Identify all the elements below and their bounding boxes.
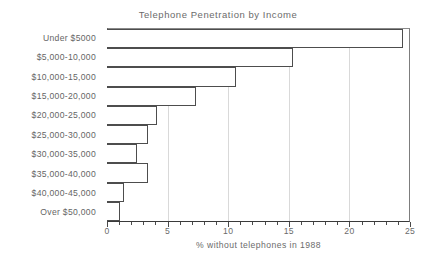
bar-6[interactable] xyxy=(107,144,137,163)
bar-row xyxy=(108,87,409,106)
tick-17 xyxy=(313,222,314,225)
tick-22 xyxy=(374,222,375,225)
bar-row xyxy=(108,106,409,125)
tick-7 xyxy=(192,222,193,225)
x-tick-label-20: 20 xyxy=(344,226,354,236)
tick-6 xyxy=(180,222,181,225)
x-tick-label-15: 15 xyxy=(284,226,294,236)
x-tick-label-5: 5 xyxy=(165,226,170,236)
bar-9[interactable] xyxy=(107,202,120,221)
tick-8 xyxy=(204,222,205,225)
y-label-9: Over $50,000 xyxy=(0,203,101,222)
y-label-5: $25,000-30,000 xyxy=(0,125,101,144)
bar-7[interactable] xyxy=(107,163,148,182)
x-tick-label-10: 10 xyxy=(223,226,233,236)
x-tick-label-25: 25 xyxy=(405,226,415,236)
tick-23 xyxy=(386,222,387,225)
tick-13 xyxy=(265,222,266,225)
tick-11 xyxy=(240,222,241,225)
bar-series xyxy=(108,29,409,221)
y-label-0: Under $5000 xyxy=(0,28,101,47)
bar-4[interactable] xyxy=(107,106,157,125)
y-label-6: $30,000-35,000 xyxy=(0,144,101,163)
tick-12 xyxy=(252,222,253,225)
bar-8[interactable] xyxy=(107,183,124,202)
tick-1 xyxy=(119,222,120,225)
x-tick-label-0: 0 xyxy=(104,226,109,236)
bar-row xyxy=(108,144,409,163)
bar-5[interactable] xyxy=(107,125,148,144)
bar-row xyxy=(108,29,409,48)
bar-row xyxy=(108,202,409,221)
tick-24 xyxy=(398,222,399,225)
tick-18 xyxy=(325,222,326,225)
chart-title: Telephone Penetration by Income xyxy=(0,9,436,20)
chart-container: Telephone Penetration by Income Under $5… xyxy=(0,0,436,265)
bar-0[interactable] xyxy=(107,29,403,48)
y-label-1: $5,000-10,000 xyxy=(0,47,101,66)
tick-21 xyxy=(362,222,363,225)
bar-row xyxy=(108,67,409,86)
y-label-7: $35,000-40,000 xyxy=(0,164,101,183)
bar-2[interactable] xyxy=(107,67,236,86)
bar-row xyxy=(108,163,409,182)
tick-19 xyxy=(337,222,338,225)
tick-3 xyxy=(143,222,144,225)
bar-1[interactable] xyxy=(107,48,293,67)
y-label-3: $15,000-20,000 xyxy=(0,86,101,105)
bar-3[interactable] xyxy=(107,87,196,106)
bar-row xyxy=(108,48,409,67)
y-label-4: $20,000-25,000 xyxy=(0,106,101,125)
y-axis-category-labels: Under $5000$5,000-10,000$10,000-15,000$1… xyxy=(0,28,101,222)
tick-16 xyxy=(301,222,302,225)
plot-area xyxy=(107,28,410,222)
bar-row xyxy=(108,125,409,144)
x-axis-tick-labels: 0510152025 xyxy=(107,226,410,238)
y-label-8: $40,000-45,000 xyxy=(0,183,101,202)
y-label-2: $10,000-15,000 xyxy=(0,67,101,86)
tick-14 xyxy=(277,222,278,225)
tick-2 xyxy=(131,222,132,225)
tick-4 xyxy=(155,222,156,225)
bar-row xyxy=(108,183,409,202)
x-axis-label: % without telephones in 1988 xyxy=(107,240,410,250)
tick-9 xyxy=(216,222,217,225)
